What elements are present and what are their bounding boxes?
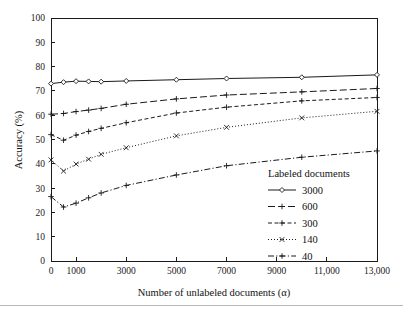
y-tick-label: 100 — [31, 13, 46, 23]
data-point-marker — [86, 157, 91, 162]
x-tick-label: 11,000 — [314, 266, 340, 276]
x-tick-label: 9000 — [267, 266, 286, 276]
marker-diamond — [99, 79, 104, 84]
data-series-layer — [48, 72, 380, 209]
legend-label-300: 300 — [302, 218, 318, 229]
chart-legend: Labeled documents300060030014040 — [268, 168, 350, 262]
legend-item-600[interactable]: 600 — [268, 201, 318, 212]
data-point-marker — [61, 80, 66, 85]
series-line-140 — [51, 111, 377, 171]
y-tick-label: 30 — [36, 184, 46, 194]
data-point-marker — [374, 86, 380, 92]
data-point-marker — [174, 77, 179, 82]
data-point-marker — [74, 162, 79, 167]
data-point-marker — [99, 79, 104, 84]
data-point-marker — [174, 96, 180, 102]
data-point-marker — [98, 190, 104, 196]
plot-frame — [51, 18, 377, 261]
data-point-marker — [99, 152, 104, 157]
series-line-300 — [51, 97, 377, 140]
y-axis-tick-labels: 0102030405060708090100 — [31, 13, 46, 266]
data-point-marker — [98, 106, 104, 112]
data-point-marker — [73, 109, 79, 115]
legend-label-140: 140 — [302, 234, 318, 245]
legend-label-600: 600 — [302, 201, 318, 212]
y-tick-label: 40 — [36, 159, 46, 169]
data-point-marker — [86, 79, 91, 84]
data-point-marker — [299, 115, 304, 120]
data-point-marker — [48, 132, 54, 138]
data-point-marker — [74, 79, 79, 84]
x-tick-label: 13,000 — [364, 266, 390, 276]
data-point-marker — [174, 110, 180, 116]
data-point-marker — [73, 132, 79, 138]
data-point-marker — [61, 169, 66, 174]
legend-label-3000: 3000 — [302, 185, 323, 196]
data-point-marker — [224, 104, 230, 110]
series-600 — [48, 86, 380, 117]
data-point-marker — [123, 101, 129, 107]
legend-item-300[interactable]: 300 — [268, 218, 318, 229]
data-point-marker — [224, 76, 229, 81]
data-point-marker — [86, 129, 92, 135]
data-point-marker — [299, 154, 305, 160]
legend-title: Labeled documents — [268, 168, 350, 179]
x-axis-ticks — [51, 257, 377, 261]
data-point-marker — [224, 125, 229, 130]
legend-item-40[interactable]: 40 — [268, 251, 313, 262]
data-point-marker — [48, 111, 54, 117]
y-tick-label: 90 — [36, 38, 46, 48]
data-point-marker — [124, 78, 129, 83]
data-point-marker — [98, 126, 104, 132]
marker-diamond — [49, 81, 54, 86]
data-point-marker — [174, 133, 179, 138]
x-tick-label: 3000 — [117, 266, 136, 276]
data-point-marker — [299, 89, 305, 95]
x-tick-label: 0 — [49, 266, 54, 276]
x-axis-title: Number of unlabeled documents (α) — [138, 287, 291, 299]
data-point-marker — [49, 81, 54, 86]
data-point-marker — [124, 145, 129, 150]
y-axis-title: Accuracy (%) — [13, 110, 25, 169]
y-tick-label: 80 — [36, 62, 46, 72]
data-point-marker — [224, 92, 230, 98]
marker-diamond — [86, 79, 91, 84]
marker-diamond — [174, 77, 179, 82]
x-tick-label: 7000 — [217, 266, 236, 276]
data-point-marker — [61, 137, 67, 143]
series-300 — [48, 95, 380, 143]
accuracy-vs-unlabeled-documents-chart: 0102030405060708090100 01000300050007000… — [0, 0, 403, 315]
legend-label-40: 40 — [302, 251, 313, 262]
marker-diamond — [74, 79, 79, 84]
data-point-marker — [61, 111, 67, 117]
data-point-marker — [279, 220, 285, 226]
data-point-marker — [279, 253, 285, 259]
data-point-marker — [123, 120, 129, 126]
y-tick-label: 60 — [36, 111, 46, 121]
y-tick-label: 10 — [36, 232, 46, 242]
series-140 — [49, 109, 380, 174]
marker-diamond — [61, 80, 66, 85]
legend-item-140[interactable]: 140 — [268, 234, 318, 245]
legend-item-3000[interactable]: 3000 — [268, 185, 323, 196]
data-point-marker — [224, 163, 230, 169]
data-point-marker — [123, 183, 129, 189]
series-line-600 — [51, 88, 377, 114]
data-point-marker — [375, 72, 380, 77]
x-tick-label: 1000 — [67, 266, 86, 276]
footer-divider — [0, 305, 403, 306]
marker-diamond — [375, 72, 380, 77]
figure-container: 0102030405060708090100 01000300050007000… — [0, 0, 403, 315]
y-tick-label: 20 — [36, 208, 46, 218]
data-point-marker — [374, 95, 380, 101]
data-point-marker — [299, 98, 305, 104]
marker-diamond — [124, 78, 129, 83]
data-point-marker — [86, 195, 92, 201]
y-tick-label: 70 — [36, 86, 46, 96]
x-tick-label: 5000 — [167, 266, 186, 276]
data-point-marker — [73, 200, 79, 206]
series-3000 — [49, 72, 380, 86]
y-tick-label: 0 — [40, 256, 45, 266]
y-axis-ticks — [51, 18, 55, 261]
marker-diamond — [299, 75, 304, 80]
